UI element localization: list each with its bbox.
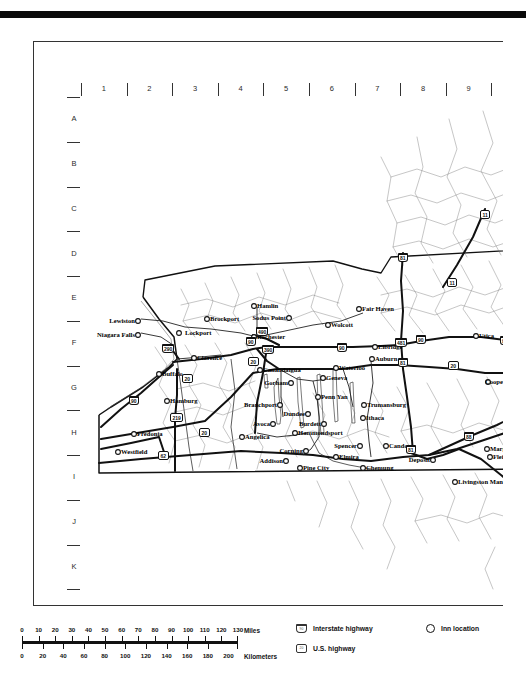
- scale-tick: [105, 643, 106, 649]
- grid-row-label: E: [68, 293, 80, 303]
- grid-row-label: H: [68, 428, 80, 438]
- inn-location-icon: [426, 624, 435, 633]
- city-label: Elmira: [339, 453, 359, 460]
- scale-tick: [55, 636, 56, 642]
- grid-row-label: I: [68, 472, 80, 482]
- scale-bars: 0102030405060708090100110120130 02040608…: [12, 620, 280, 682]
- scale-km-tick-label: 0: [13, 652, 31, 659]
- scale-tick: [187, 643, 188, 649]
- scale-km-tick-label: 120: [137, 652, 155, 659]
- legend-key-us-highway: 20 U.S. highway: [296, 644, 355, 653]
- grid-column-label: 9: [459, 83, 479, 95]
- us-highway-shield-icon: 20: [182, 374, 193, 383]
- grid-ruler-top: 12345678910: [67, 83, 503, 97]
- scale-miles-tick-label: 90: [163, 626, 181, 633]
- interstate-shield-icon: 81: [406, 445, 416, 454]
- grid-column-label: 6: [322, 83, 342, 95]
- interstate-shield-icon: 490: [256, 327, 268, 336]
- grid-row-label: F: [68, 338, 80, 348]
- city-label: Geneva: [326, 374, 347, 381]
- grid-tick: [400, 83, 401, 96]
- grid-row-label: C: [68, 204, 80, 214]
- grid-tick: [67, 321, 80, 322]
- grid-column-label: 1: [94, 83, 114, 95]
- city-label: Trumansburg: [367, 401, 406, 408]
- scale-km-tick-label: 160: [178, 652, 196, 659]
- city-label: Waterloo: [339, 364, 365, 371]
- grid-tick: [172, 83, 173, 96]
- lake-ontario-shore: [143, 249, 503, 297]
- grid-tick: [67, 545, 80, 546]
- legend-key-inn-label: Inn location: [441, 625, 479, 632]
- grid-tick: [67, 455, 80, 456]
- city-label: Auburn: [375, 355, 397, 362]
- scale-miles-tick-label: 20: [46, 626, 64, 633]
- scale-tick: [105, 636, 106, 642]
- interstate-shield-icon: 290: [162, 344, 174, 353]
- grid-column-label: 7: [367, 83, 387, 95]
- city-label: Utica: [479, 332, 494, 339]
- scale-km-tick-label: 180: [199, 652, 217, 659]
- city-label: Lewiston: [109, 317, 135, 324]
- us-highway-shield-icon: 20: [448, 361, 459, 370]
- legend-key-interstate: 90 Interstate highway: [296, 624, 373, 633]
- city-label: Fredonia: [137, 430, 163, 437]
- city-label: Angelica: [245, 433, 270, 440]
- grid-tick: [491, 83, 492, 96]
- scale-tick: [172, 636, 173, 642]
- scale-tick: [167, 643, 168, 649]
- city-label: Spencer: [334, 442, 357, 449]
- interstate-shield-icon: 390: [262, 345, 274, 354]
- city-label: Fleischman: [493, 453, 503, 460]
- city-label: Deposit: [409, 456, 430, 463]
- city-label: Clarence: [197, 354, 222, 361]
- interstate-shield-icon: 90: [129, 396, 139, 405]
- grid-row-label: J: [68, 517, 80, 527]
- legend-key-us-highway-label: U.S. highway: [313, 645, 355, 652]
- us-highway-shield-icon: 62: [158, 451, 169, 460]
- scale-tick: [205, 636, 206, 642]
- grid-row-label: A: [68, 114, 80, 124]
- city-label: Hamburg: [170, 397, 197, 404]
- grid-tick: [67, 500, 80, 501]
- grid-tick: [67, 589, 80, 590]
- scale-miles-tick-label: 70: [129, 626, 147, 633]
- scale-miles-tick-label: 10: [30, 626, 48, 633]
- grid-row-label: B: [68, 159, 80, 169]
- interstate-shield-icon: 88: [464, 432, 474, 441]
- scale-km-tick-label: 60: [75, 652, 93, 659]
- us-highway-shield-icon: 20: [296, 644, 307, 653]
- scale-miles-tick-label: 80: [146, 626, 164, 633]
- city-label: Lockport: [185, 329, 211, 336]
- city-label: Ithaca: [366, 414, 384, 421]
- grid-tick: [67, 410, 80, 411]
- grid-tick: [127, 83, 128, 96]
- grid-tick: [67, 187, 80, 188]
- interstate-shield-icon: 81: [398, 253, 408, 262]
- scale-bar-end-right: [237, 636, 238, 649]
- scale-miles-tick-label: 120: [212, 626, 230, 633]
- scale-tick: [39, 636, 40, 642]
- city-label: Addison: [260, 457, 283, 464]
- city-label: Hamlin: [257, 302, 278, 309]
- grid-tick: [263, 83, 264, 96]
- legend-keys: 90 Interstate highway 20 U.S. highway In…: [296, 620, 522, 670]
- scale-km-unit: Kilometers: [244, 653, 277, 661]
- interstate-shield-icon: 90: [500, 336, 503, 345]
- legend-key-interstate-label: Interstate highway: [313, 625, 373, 632]
- us-highway-shield-icon: 20: [199, 428, 210, 437]
- grid-row-label: G: [68, 383, 80, 393]
- city-label: Livingston Manor: [458, 478, 503, 485]
- scale-tick: [88, 636, 89, 642]
- us-highway-shield-icon: 219: [170, 413, 183, 422]
- city-label: Cooperstown: [485, 378, 503, 385]
- city-label: Canandaigua: [263, 366, 301, 373]
- grid-tick: [355, 83, 356, 96]
- grid-row-label: D: [68, 249, 80, 259]
- map-geography-svg: [81, 97, 503, 606]
- scale-tick: [208, 643, 209, 649]
- scale-tick: [72, 636, 73, 642]
- scale-tick: [155, 636, 156, 642]
- scale-tick: [84, 643, 85, 649]
- scale-tick: [138, 636, 139, 642]
